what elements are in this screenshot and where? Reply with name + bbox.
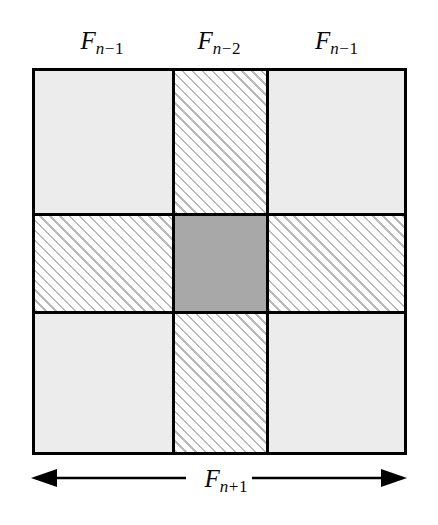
dimension-label-subscript: n+1 bbox=[220, 477, 248, 496]
grid-cell-bottom-left bbox=[32, 311, 175, 455]
grid bbox=[32, 68, 407, 455]
grid-cell-middle-left bbox=[32, 213, 175, 314]
arrowhead-right-icon bbox=[381, 469, 407, 487]
arrowhead-left-icon bbox=[31, 469, 57, 487]
grid-cell-middle-right bbox=[266, 213, 407, 314]
column-label-left-number: 1 bbox=[115, 39, 124, 58]
column-label-left-base: F bbox=[81, 27, 96, 54]
column-label-left-subscript: n−1 bbox=[96, 39, 124, 58]
column-label-middle-number: 2 bbox=[232, 39, 241, 58]
column-label-middle-base: F bbox=[198, 27, 213, 54]
dimension-label: Fn+1 bbox=[186, 466, 266, 495]
grid-cell-top-right bbox=[266, 68, 407, 216]
dimension-label-base: F bbox=[205, 465, 220, 492]
grid-cell-top-center bbox=[172, 68, 269, 216]
grid-cell-middle-center bbox=[172, 213, 269, 314]
dimension-label-operator: + bbox=[228, 477, 239, 496]
grid-cell-bottom-right bbox=[266, 311, 407, 455]
column-label-right-operator: − bbox=[339, 39, 350, 58]
column-label-right-variable: n bbox=[330, 39, 339, 58]
fibonacci-diagram: Fn−1 Fn−2 Fn−1 Fn+1 bbox=[0, 0, 438, 525]
column-label-right: Fn−1 bbox=[266, 28, 407, 57]
column-label-left: Fn−1 bbox=[32, 28, 172, 57]
column-label-middle: Fn−2 bbox=[172, 28, 266, 57]
column-label-middle-subscript: n−2 bbox=[213, 39, 241, 58]
column-label-left-operator: − bbox=[104, 39, 115, 58]
column-label-right-subscript: n−1 bbox=[330, 39, 358, 58]
column-label-right-base: F bbox=[315, 27, 330, 54]
dimension-label-number: 1 bbox=[239, 477, 248, 496]
grid-cell-bottom-center bbox=[172, 311, 269, 455]
column-label-right-number: 1 bbox=[349, 39, 358, 58]
grid-cell-top-left bbox=[32, 68, 175, 216]
column-label-middle-operator: − bbox=[221, 39, 232, 58]
